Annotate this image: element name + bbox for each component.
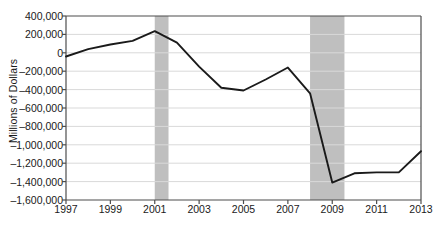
grid-lines	[66, 34, 421, 181]
x-axis-ticks	[66, 200, 421, 204]
data-series-line	[66, 31, 421, 182]
plot-area	[0, 0, 442, 233]
chart-container: Millions of Dollars 400,000200,0000–200,…	[0, 0, 442, 233]
